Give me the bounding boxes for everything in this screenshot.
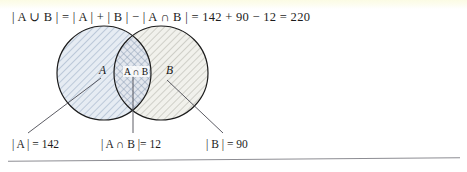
callout-cardinality-intersection: | A ∩ B |= 12 bbox=[101, 138, 161, 150]
bottom-divider-rule bbox=[8, 157, 460, 162]
set-b-label: B bbox=[166, 64, 173, 76]
set-a-label: A bbox=[99, 64, 106, 76]
set-intersection-label: A ∩ B bbox=[123, 66, 149, 77]
callout-cardinality-b: | B | = 90 bbox=[206, 138, 248, 150]
callout-cardinality-a: | A | = 142 bbox=[12, 138, 59, 150]
venn-diagram-figure: | A ∪ B | = | A | + | B | − | A ∩ B | = … bbox=[0, 0, 467, 172]
